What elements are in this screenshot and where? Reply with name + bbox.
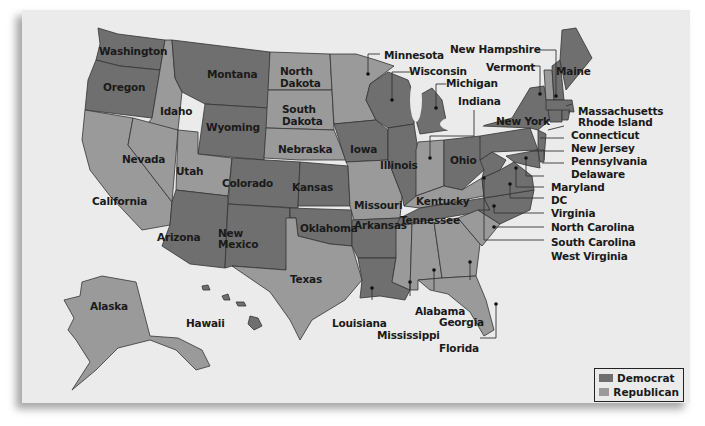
label-west-virginia: West Virginia xyxy=(551,251,628,262)
label-oklahoma: Oklahoma xyxy=(300,223,358,234)
label-georgia: Georgia xyxy=(439,317,484,328)
label-new-york: New York xyxy=(496,116,550,127)
state-hawaii-island xyxy=(222,294,230,300)
label-california: California xyxy=(92,196,147,207)
label-washington: Washington xyxy=(99,46,167,57)
label-vermont: Vermont xyxy=(486,62,535,73)
label-texas: Texas xyxy=(290,274,322,285)
label-south-carolina: South Carolina xyxy=(551,237,636,248)
label-south-dakota-1: South xyxy=(282,104,316,115)
label-colorado: Colorado xyxy=(222,178,273,189)
legend-item-democrat: Democrat xyxy=(599,371,679,385)
legend: Democrat Republican xyxy=(594,368,684,402)
label-wyoming: Wyoming xyxy=(206,122,260,133)
label-arkansas: Arkansas xyxy=(354,220,407,231)
republican-swatch xyxy=(599,388,609,396)
state-hawaii-island xyxy=(236,302,246,306)
label-montana: Montana xyxy=(207,69,257,80)
state-rhode-island xyxy=(562,110,570,120)
label-pennsylvania: Pennsylvania xyxy=(571,156,647,167)
label-minnesota: Minnesota xyxy=(384,50,444,61)
label-maine: Maine xyxy=(556,66,591,77)
label-new-hampshire: New Hampshire xyxy=(450,44,541,55)
label-iowa: Iowa xyxy=(350,144,377,155)
label-kansas: Kansas xyxy=(292,182,333,193)
label-alaska: Alaska xyxy=(90,301,128,312)
label-delaware: Delaware xyxy=(571,169,625,180)
label-michigan: Michigan xyxy=(446,78,498,89)
label-rhode-island: Rhode Island xyxy=(578,117,653,128)
state-maine xyxy=(560,28,592,90)
label-mississippi: Mississippi xyxy=(377,330,440,341)
label-florida: Florida xyxy=(439,343,479,354)
label-utah: Utah xyxy=(176,166,203,177)
label-dc: DC xyxy=(551,195,567,206)
label-tennessee: Tennessee xyxy=(400,215,460,226)
label-idaho: Idaho xyxy=(160,106,192,117)
label-nebraska: Nebraska xyxy=(278,144,332,155)
us-election-map xyxy=(0,0,705,426)
label-connecticut: Connecticut xyxy=(571,130,639,141)
label-hawaii: Hawaii xyxy=(186,318,225,329)
label-south-dakota-2: Dakota xyxy=(282,116,323,127)
legend-label: Democrat xyxy=(617,372,675,384)
democrat-swatch xyxy=(599,374,613,382)
label-north-dakota-1: North xyxy=(280,66,313,77)
label-virginia: Virginia xyxy=(551,208,595,219)
label-new-jersey: New Jersey xyxy=(571,143,635,154)
label-oregon: Oregon xyxy=(103,82,145,93)
label-louisiana: Louisiana xyxy=(332,318,387,329)
label-indiana: Indiana xyxy=(458,96,501,107)
label-missouri: Missouri xyxy=(354,200,402,211)
state-alaska xyxy=(64,276,210,390)
state-connecticut xyxy=(548,110,562,122)
state-hawaii-big xyxy=(248,316,262,330)
label-nevada: Nevada xyxy=(122,154,165,165)
label-ohio: Ohio xyxy=(450,155,476,166)
label-kentucky: Kentucky xyxy=(416,196,470,207)
label-illinois: Illinois xyxy=(380,160,418,171)
legend-item-republican: Republican xyxy=(599,385,679,399)
label-maryland: Maryland xyxy=(551,182,605,193)
label-arizona: Arizona xyxy=(157,232,200,243)
legend-label: Republican xyxy=(613,386,679,398)
state-hawaii-island xyxy=(202,285,210,290)
label-new-mexico-2: Mexico xyxy=(218,239,258,250)
label-north-carolina: North Carolina xyxy=(551,222,634,233)
label-north-dakota-2: Dakota xyxy=(280,78,321,89)
label-wisconsin: Wisconsin xyxy=(409,66,467,77)
